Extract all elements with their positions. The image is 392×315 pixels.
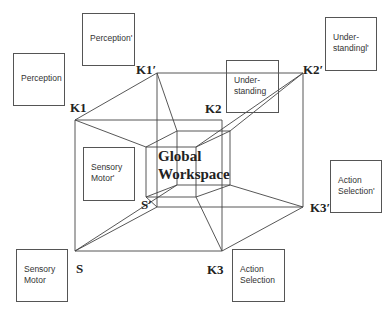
box-understanding-prime: Under- standingl': [325, 17, 377, 71]
box-label: Under- standing: [234, 75, 266, 97]
edge-K3p-bBR: [230, 185, 303, 207]
vertex-label-k3-prime: K3′: [310, 200, 330, 216]
edge-fTR-bTR: [196, 131, 230, 147]
box-sensory-motor-prime: Sensory Motor': [83, 147, 135, 201]
edge-K1-fTL: [75, 120, 146, 147]
edge-fTL-bTL: [146, 131, 177, 147]
vertex-label-k3: K3: [207, 262, 224, 278]
edge-K1-K1p: [75, 73, 157, 120]
box-label: Action Selection: [240, 264, 275, 286]
global-workspace-label: Global Workspace: [158, 147, 230, 183]
box-label: Sensory Motor': [91, 162, 122, 184]
vertex-label-k1: K1: [70, 100, 87, 116]
edge-S-Sp: [75, 207, 157, 251]
edge-fBR-bBR: [196, 185, 230, 197]
vertex-label-k1-prime: K1′: [136, 62, 156, 78]
edge-K3-K3p: [222, 207, 303, 251]
box-label: Perception': [90, 33, 132, 44]
box-understanding: Under- standing: [226, 60, 279, 113]
vertex-label-k2: K2: [205, 101, 222, 117]
box-sensory-motor: Sensory Motor: [16, 249, 68, 302]
box-action-selection: Action Selection: [232, 249, 285, 302]
vertex-label-k2-prime: K2′: [303, 62, 323, 78]
box-label: Sensory Motor: [24, 264, 55, 286]
box-perception: Perception: [13, 53, 65, 106]
vertex-label-s-prime: S′: [141, 197, 152, 213]
edge-K1p-bTL: [157, 73, 177, 131]
box-action-selection-prime: Action Selection': [330, 160, 382, 213]
box-perception-prime: Perception': [82, 13, 135, 66]
edge-K3-fBR: [196, 197, 222, 251]
box-label: Action Selection': [338, 175, 375, 197]
vertex-label-s: S: [76, 261, 83, 277]
box-label: Under- standingl': [333, 32, 369, 54]
box-label: Perception: [21, 73, 62, 84]
